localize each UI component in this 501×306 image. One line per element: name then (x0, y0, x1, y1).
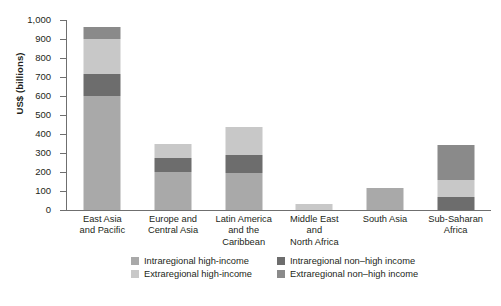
y-axis-tick: 0 (60, 210, 66, 211)
bar-group[interactable] (138, 20, 209, 210)
bar-segment[interactable] (437, 145, 474, 179)
bar-group[interactable] (208, 20, 279, 210)
y-axis-tick-label: 500 (7, 109, 51, 120)
bar-segment[interactable] (225, 155, 262, 173)
y-axis-tick: 800 (60, 58, 66, 59)
x-axis-labels: East Asiaand PacificEurope andCentral As… (67, 214, 491, 258)
bar-group[interactable] (279, 20, 350, 210)
bar-stack[interactable] (437, 145, 474, 210)
y-axis-tick-label: 400 (7, 128, 51, 139)
y-axis-tick-label: 100 (7, 185, 51, 196)
y-axis-tick-label: 700 (7, 71, 51, 82)
x-axis-label: East Asiaand Pacific (67, 214, 138, 237)
bar-segment[interactable] (84, 74, 121, 96)
bar-segment[interactable] (225, 173, 262, 210)
bar-segment[interactable] (225, 127, 262, 155)
legend-row: Extraregional high-income Extraregional … (131, 269, 431, 282)
y-axis-tick-label: 300 (7, 147, 51, 158)
bar-segment[interactable] (154, 144, 191, 157)
legend-swatch-icon (131, 270, 139, 278)
y-axis-tick: 300 (60, 153, 66, 154)
bar-stack[interactable] (225, 127, 262, 210)
bar-segment[interactable] (437, 197, 474, 210)
bar-segment[interactable] (154, 172, 191, 210)
bar-stack[interactable] (296, 204, 333, 210)
plot-area: 01002003004005006007008009001,000 (66, 20, 491, 210)
bar-group[interactable] (67, 20, 138, 210)
bar-segment[interactable] (296, 204, 333, 210)
y-axis-tick: 200 (60, 172, 66, 173)
bar-segment[interactable] (84, 27, 121, 39)
y-axis-tick-label: 200 (7, 166, 51, 177)
legend-item-extraregional-high-income: Extraregional high-income (131, 269, 277, 279)
bar-group[interactable] (350, 20, 421, 210)
y-axis-tick-label: 800 (7, 52, 51, 63)
legend-item-extraregional-non-high-income: Extraregional non–high income (277, 269, 431, 279)
bar-segment[interactable] (437, 180, 474, 197)
x-axis-label: South Asia (350, 214, 421, 225)
legend-row: Intraregional high-income Intraregional … (131, 256, 431, 269)
y-axis-tick: 700 (60, 77, 66, 78)
legend-swatch-icon (131, 257, 139, 265)
bar-segment[interactable] (84, 39, 121, 74)
y-axis-title: US$ (billions) (14, 29, 25, 139)
legend-swatch-icon (277, 257, 285, 265)
bar-segment[interactable] (84, 96, 121, 210)
legend-swatch-icon (277, 270, 285, 278)
y-axis-tick-label: 600 (7, 90, 51, 101)
y-axis-tick: 900 (60, 39, 66, 40)
bar-series-container (67, 20, 491, 210)
bar-stack[interactable] (154, 144, 191, 210)
y-axis-tick: 1,000 (60, 20, 66, 21)
x-axis-line (66, 210, 491, 211)
y-axis-tick: 400 (60, 134, 66, 135)
legend-item-label: Intraregional high-income (144, 256, 249, 266)
x-axis-label: Sub-SaharanAfrica (420, 214, 491, 237)
y-axis-tick: 100 (60, 191, 66, 192)
chart-legend: Intraregional high-income Intraregional … (131, 256, 431, 282)
legend-item-intraregional-high-income: Intraregional high-income (131, 256, 277, 266)
y-axis-tick: 500 (60, 115, 66, 116)
legend-item-intraregional-non-high-income: Intraregional non–high income (277, 256, 431, 266)
legend-item-label: Extraregional non–high income (290, 269, 418, 279)
bar-segment[interactable] (366, 188, 403, 210)
bar-group[interactable] (420, 20, 491, 210)
x-axis-label: Middle EastandNorth Africa (279, 214, 350, 248)
x-axis-label: Latin Americaand theCaribbean (208, 214, 279, 248)
legend-item-label: Intraregional non–high income (290, 256, 415, 266)
y-axis-tick-label: 900 (7, 33, 51, 44)
y-axis-tick: 600 (60, 96, 66, 97)
bar-segment[interactable] (154, 158, 191, 172)
y-axis-tick-label: 0 (7, 204, 51, 215)
y-axis-tick-label: 1,000 (7, 14, 51, 25)
bar-stack[interactable] (84, 27, 121, 210)
stacked-bar-chart: US$ (billions) 0100200300400500600700800… (0, 0, 501, 306)
bar-stack[interactable] (366, 188, 403, 210)
x-axis-label: Europe andCentral Asia (138, 214, 209, 237)
legend-item-label: Extraregional high-income (144, 269, 252, 279)
